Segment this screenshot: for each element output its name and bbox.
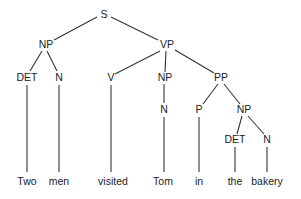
node-det-2: DET (225, 133, 247, 145)
word-visited: visited (98, 175, 128, 187)
node-np-subject: NP (39, 38, 54, 50)
node-np-object: NP (158, 71, 173, 83)
node-n-2: N (160, 103, 168, 115)
node-pp: PP (214, 71, 228, 83)
word-tom: Tom (153, 175, 173, 187)
node-n-1: N (55, 71, 63, 83)
word-in: in (195, 175, 203, 187)
node-s: S (100, 8, 107, 20)
syntax-tree: S NP VP DET N V NP PP N P NP DET N Two m… (0, 0, 301, 199)
word-two: Two (17, 175, 36, 187)
node-det-1: DET (17, 71, 39, 83)
node-vp: VP (160, 38, 174, 50)
node-p: P (195, 103, 202, 115)
tree-words: Two men visited Tom in the bakery (17, 175, 283, 187)
word-men: men (49, 175, 70, 187)
node-n-3: N (263, 133, 271, 145)
word-bakery: bakery (251, 175, 283, 187)
word-the: the (228, 175, 243, 187)
tree-nodes: S NP VP DET N V NP PP N P NP DET N (17, 8, 271, 145)
node-np-pp: NP (237, 103, 252, 115)
node-v: V (107, 71, 114, 83)
tree-edges (27, 17, 267, 172)
